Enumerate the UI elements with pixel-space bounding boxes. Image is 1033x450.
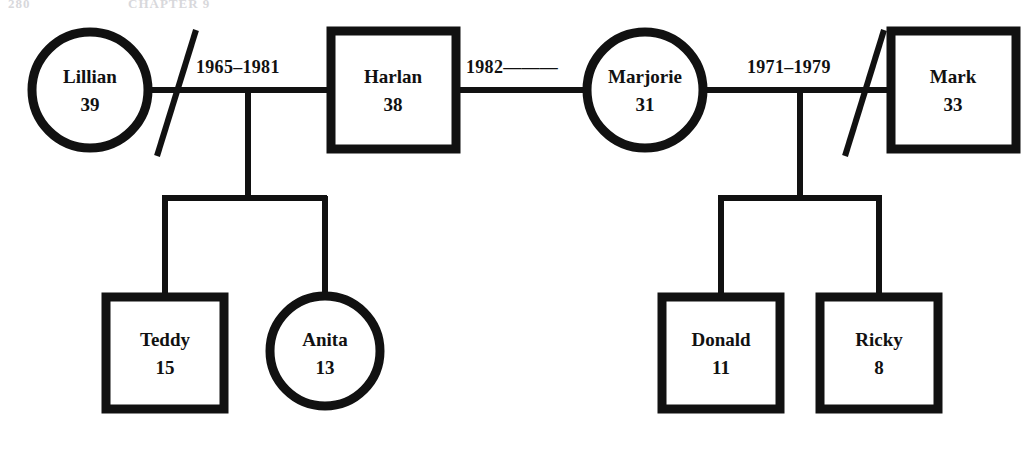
relationship-label-marjorie-mark: 1971–1979: [747, 57, 831, 77]
person-name-marjorie: Marjorie: [608, 66, 682, 87]
genogram-page: 280 CHAPTER 9 Lillian 39: [0, 0, 1033, 450]
person-node-donald[interactable]: Donald 11: [662, 297, 780, 409]
male-square-symbol: [331, 31, 456, 149]
male-square-symbol: [106, 297, 224, 409]
person-age-anita: 13: [316, 357, 335, 378]
person-node-teddy[interactable]: Teddy 15: [106, 297, 224, 409]
male-square-symbol: [891, 31, 1016, 149]
person-age-marjorie: 31: [636, 94, 655, 115]
person-node-lillian[interactable]: Lillian 39: [32, 32, 148, 148]
person-name-lillian: Lillian: [63, 66, 117, 87]
person-node-marjorie[interactable]: Marjorie 31: [587, 32, 703, 148]
person-name-anita: Anita: [302, 329, 348, 350]
person-age-harlan: 38: [384, 94, 403, 115]
person-age-teddy: 15: [156, 357, 175, 378]
person-age-donald: 11: [712, 357, 730, 378]
genogram-canvas: Lillian 39 Harlan 38 Marjorie 31 Mark 33…: [0, 0, 1033, 450]
person-name-donald: Donald: [691, 329, 751, 350]
female-circle-symbol: [32, 32, 148, 148]
person-node-ricky[interactable]: Ricky 8: [820, 297, 938, 409]
relationship-label-harlan-marjorie: 1982———: [466, 57, 559, 77]
person-node-mark[interactable]: Mark 33: [891, 31, 1016, 149]
person-name-mark: Mark: [930, 66, 977, 87]
male-square-symbol: [662, 297, 780, 409]
female-circle-symbol: [587, 32, 703, 148]
person-node-anita[interactable]: Anita 13: [270, 296, 380, 406]
person-name-teddy: Teddy: [140, 329, 190, 350]
female-circle-symbol: [270, 296, 380, 406]
person-name-harlan: Harlan: [364, 66, 422, 87]
person-age-lillian: 39: [81, 94, 100, 115]
person-node-harlan[interactable]: Harlan 38: [331, 31, 456, 149]
person-name-ricky: Ricky: [855, 329, 903, 350]
person-age-ricky: 8: [874, 357, 884, 378]
male-square-symbol: [820, 297, 938, 409]
relationship-label-lillian-harlan: 1965–1981: [196, 57, 280, 77]
person-age-mark: 33: [944, 94, 963, 115]
